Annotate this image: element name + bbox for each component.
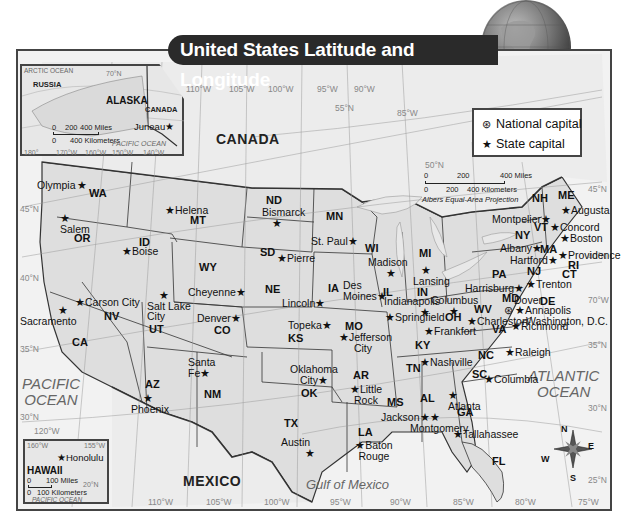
- state-tx: TX: [284, 418, 298, 429]
- capital-washington-dc: Washington, D.C.: [526, 316, 608, 327]
- capital-phoenix: ★Phoenix: [131, 393, 169, 414]
- capital-helena: ★Helena: [165, 205, 208, 216]
- legend-state-capital: ★State capital: [482, 134, 580, 154]
- alaska-ocean-top: ARCTIC OCEAN: [24, 68, 73, 75]
- state-ok: OK: [301, 388, 318, 399]
- state-fl: FL: [492, 456, 505, 467]
- capital-lincoln: Lincoln★: [282, 298, 325, 309]
- capital-jefferson-city: ★Jefferson City: [339, 332, 387, 353]
- capital-bismarck: Bismarck★: [262, 207, 305, 228]
- label-pacific-ocean: PACIFIC OCEAN: [22, 376, 80, 408]
- capital-oklahoma-city: Oklahoma City★: [285, 364, 343, 385]
- capital-concord: ★Concord: [550, 222, 600, 233]
- label-gulf-of-mexico: Gulf of Mexico: [306, 478, 389, 491]
- capital-pierre: ★Pierre: [277, 253, 315, 264]
- state-ar: AR: [353, 370, 369, 381]
- capital-little-rock: ★Little Rock: [348, 384, 384, 405]
- state-wa: WA: [89, 188, 107, 199]
- alaska-canada-label: CANADA: [145, 106, 178, 114]
- capital-salem: ★Salem: [60, 213, 90, 234]
- state-co: CO: [214, 325, 231, 336]
- state-mn: MN: [326, 211, 343, 222]
- capital-santa-fe: Santa Fe★: [188, 357, 228, 378]
- capital-providence: ★Providence: [558, 250, 621, 261]
- capital-annapolis: ★Annapolis: [515, 305, 571, 316]
- scale-line: [425, 181, 505, 184]
- label-atlantic-ocean: ATLANTIC OCEAN: [528, 368, 599, 400]
- state-mt: MT: [190, 215, 206, 226]
- state-nv: NV: [104, 311, 119, 322]
- state-nm: NM: [204, 389, 221, 400]
- state-nd: ND: [266, 195, 282, 206]
- state-mi: MI: [419, 248, 431, 259]
- state-tn: TN: [406, 363, 421, 374]
- capital-charleston: ★Charleston: [467, 316, 528, 327]
- capital-tallahassee: ★Tallahassee: [453, 429, 518, 440]
- state-or: OR: [74, 233, 91, 244]
- capital-nashville: ★Nashville: [420, 357, 473, 368]
- state-ia: IA: [328, 283, 339, 294]
- alaska-state-label: ALASKA: [106, 96, 148, 106]
- alaska-russia-label: RUSSIA: [33, 81, 61, 89]
- alaska-ocean-bottom: PACIFIC OCEAN: [112, 140, 166, 147]
- state-al: AL: [420, 393, 435, 404]
- capital-st-paul: St. Paul★: [311, 236, 358, 247]
- state-ne: NE: [265, 284, 280, 295]
- state-nh: NH: [532, 193, 548, 204]
- state-ny: NY: [515, 230, 530, 241]
- map-title: United States Latitude and Longitude: [168, 35, 498, 65]
- state-wi: WI: [365, 243, 378, 254]
- capital-frankfort: ★Frankfort: [424, 326, 476, 337]
- capital-harrisburg: Harrisburg★: [465, 283, 524, 294]
- state-ut: UT: [149, 324, 164, 335]
- state-nj: NJ: [527, 266, 541, 277]
- state-nc: NC: [478, 350, 494, 361]
- capital-boise: ★Boise: [122, 246, 158, 257]
- state-pa: PA: [492, 269, 506, 280]
- capital-montpelier: Montpelier★: [492, 214, 551, 225]
- state-ky: KY: [415, 340, 430, 351]
- state-ms: MS: [387, 397, 404, 408]
- capital-boston: ★Boston: [560, 233, 603, 244]
- capital-atlanta: ★Atlanta: [448, 390, 481, 411]
- capital-baton-rouge: ★Baton Rouge: [355, 440, 393, 461]
- capital-columbus: Columbus★: [431, 295, 478, 316]
- state-me: ME: [558, 190, 575, 201]
- state-sd: SD: [260, 247, 275, 258]
- state-ks: KS: [288, 333, 303, 344]
- capital-madison: Madison★: [368, 257, 408, 278]
- state-ri: RI: [568, 260, 579, 271]
- capital-topeka: Topeka★: [288, 320, 332, 331]
- alaska-scale-line: [53, 132, 99, 135]
- capital-lansing: ★Lansing: [413, 265, 450, 286]
- national-capital-icon: ⊛: [482, 114, 496, 134]
- capital-olympia: Olympia★: [37, 180, 87, 191]
- legend: ⊛National capital ★State capital: [472, 108, 582, 157]
- capital-augusta: ★Augusta: [561, 205, 610, 216]
- us-lat-long-map: United States Latitude and Longitude ⊛Na…: [0, 0, 628, 528]
- state-ca: CA: [72, 337, 88, 348]
- state-az: AZ: [145, 379, 160, 390]
- capital-columbia: ★Columbia: [484, 374, 538, 385]
- state-wy: WY: [199, 262, 217, 273]
- state-capital-icon: ★: [482, 134, 496, 154]
- capital-austin: Austin★: [281, 437, 315, 458]
- capital-juneau: Juneau★: [134, 122, 174, 132]
- capital-hartford: Hartford★: [510, 255, 558, 266]
- label-mexico: MEXICO: [183, 474, 241, 488]
- capital-salt-lake-city: ★Salt Lake City: [147, 290, 197, 322]
- national-capital-marker: ⊛: [504, 305, 513, 316]
- capital-trenton: ★Trenton: [526, 279, 572, 290]
- hawaii-state-label: HAWAII: [27, 466, 63, 476]
- legend-national-capital: ⊛National capital: [482, 114, 580, 134]
- capital-honolulu: ★Honolulu: [57, 453, 104, 463]
- capital-raleigh: ★Raleigh: [505, 347, 551, 358]
- state-la: LA: [358, 427, 373, 438]
- capital-des-moines: Des Moines★: [343, 280, 383, 301]
- hawaii-ocean: PACIFIC OCEAN: [32, 497, 82, 504]
- capital-carson-city: ★Carson City: [75, 297, 140, 308]
- capital-sacramento: ★Sacramento: [20, 305, 77, 326]
- capital-albany: Albany★: [500, 243, 542, 254]
- capital-denver: Denver★: [197, 313, 241, 324]
- label-canada: CANADA: [216, 132, 280, 146]
